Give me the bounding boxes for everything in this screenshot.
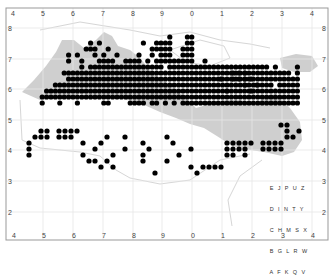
key-cell: E — [270, 185, 275, 191]
tick-bottom-10: 4 — [311, 232, 315, 239]
tick-bottom-2: 6 — [72, 232, 76, 239]
tick-left-2: 6 — [8, 86, 12, 93]
occurrence-dot — [189, 40, 194, 45]
tick-right-0: 8 — [322, 25, 326, 32]
occurrence-dot — [167, 40, 172, 45]
occurrence-dot — [92, 46, 97, 51]
occurrence-dot — [92, 52, 97, 57]
key-cell: D — [270, 206, 275, 212]
key-cell: N — [284, 206, 289, 212]
key-row-0: E J P U Z — [258, 178, 308, 199]
occurrence-dot — [167, 52, 172, 57]
occurrence-dot — [79, 58, 84, 63]
occurrence-dot — [189, 34, 194, 39]
occurrence-dot — [110, 58, 115, 63]
occurrence-dot — [101, 52, 106, 57]
occurrence-dot — [295, 64, 300, 69]
occurrence-dot — [189, 58, 194, 63]
tick-right-2: 6 — [322, 86, 326, 93]
tick-right-5: 3 — [322, 178, 326, 185]
occurrence-dot — [202, 58, 207, 63]
tick-top-2: 6 — [71, 10, 75, 17]
tick-right-4: 4 — [322, 147, 326, 154]
key-cell: V — [301, 269, 306, 275]
occurrence-dot — [286, 70, 291, 75]
occurrence-dot — [295, 70, 300, 75]
key-cell: Z — [301, 185, 306, 191]
tick-left-5: 3 — [8, 178, 12, 185]
tick-top-7: 1 — [220, 10, 224, 17]
tick-left-3: 5 — [8, 117, 12, 124]
key-cell: A — [269, 269, 274, 275]
tick-left-4: 4 — [8, 147, 12, 154]
tick-top-1: 5 — [41, 10, 45, 17]
occurrence-dot — [150, 52, 155, 57]
occurrence-dot — [154, 100, 159, 105]
key-cell: I — [278, 206, 281, 212]
tick-bottom-5: 9 — [161, 232, 165, 239]
occurrence-dot — [88, 40, 93, 45]
tick-top-8: 2 — [250, 10, 254, 17]
occurrence-dot — [141, 40, 146, 45]
occurrence-dot — [75, 52, 80, 57]
tick-right-6: 2 — [322, 209, 326, 216]
tick-left-1: 7 — [8, 56, 12, 63]
occurrence-dot — [106, 100, 111, 105]
key-cell: Q — [293, 269, 299, 275]
tick-bottom-1: 5 — [42, 232, 46, 239]
key-cell: X — [303, 227, 308, 233]
tick-bottom-3: 7 — [102, 232, 106, 239]
occurrence-dot — [295, 76, 300, 81]
key-cell: S — [295, 227, 300, 233]
tick-top-6: 0 — [190, 10, 194, 17]
tick-top-4: 8 — [131, 10, 135, 17]
key-row-1: D I N T Y — [258, 199, 308, 220]
key-cell: P — [285, 185, 290, 191]
occurrence-dot — [189, 52, 194, 57]
occurrence-dot — [66, 52, 71, 57]
occurrence-dot — [295, 82, 300, 87]
occurrence-dot — [273, 64, 278, 69]
occurrence-dot — [114, 52, 119, 57]
tick-bottom-7: 1 — [221, 232, 225, 239]
occurrence-dot — [167, 46, 172, 51]
key-cell: U — [293, 185, 298, 191]
tick-bottom-0: 4 — [12, 232, 16, 239]
tick-right-3: 5 — [322, 117, 326, 124]
tick-left-6: 2 — [8, 209, 12, 216]
occurrence-dot — [136, 52, 141, 57]
grid-square-key: E J P U Z D I N T Y C H M S X B G L R W … — [258, 178, 308, 279]
occurrence-dot — [106, 46, 111, 51]
tick-bottom-8: 2 — [251, 232, 255, 239]
tick-right-1: 7 — [322, 56, 326, 63]
tick-top-10: 4 — [310, 10, 314, 17]
occurrence-dot — [57, 100, 62, 105]
key-row-2: C H M S X — [258, 220, 308, 241]
occurrence-dot — [79, 64, 84, 69]
key-cell: M — [286, 227, 292, 233]
tick-top-3: 7 — [101, 10, 105, 17]
key-cell: Y — [300, 206, 305, 212]
key-cell: B — [270, 248, 275, 254]
occurrence-dot — [145, 58, 150, 63]
occurrence-dot — [295, 100, 300, 105]
key-row-3: B G L R W — [258, 241, 308, 262]
key-cell: W — [302, 248, 309, 254]
key-cell: K — [285, 269, 290, 275]
tick-top-0: 4 — [11, 10, 15, 17]
key-cell: H — [278, 227, 283, 233]
occurrence-dot — [163, 100, 168, 105]
key-row-4: A F K Q V — [258, 262, 308, 279]
occurrence-dot — [189, 46, 194, 51]
tick-left-0: 8 — [8, 25, 12, 32]
occurrence-dot — [97, 40, 102, 45]
occurrence-dot — [172, 100, 177, 105]
occurrence-dot — [75, 100, 80, 105]
tick-bottom-4: 8 — [132, 232, 136, 239]
tick-top-9: 3 — [280, 10, 284, 17]
occurrence-dot — [268, 82, 273, 87]
key-cell: G — [278, 248, 284, 254]
key-cell: T — [292, 206, 297, 212]
key-cell: J — [278, 185, 282, 191]
occurrence-dot — [158, 64, 163, 69]
